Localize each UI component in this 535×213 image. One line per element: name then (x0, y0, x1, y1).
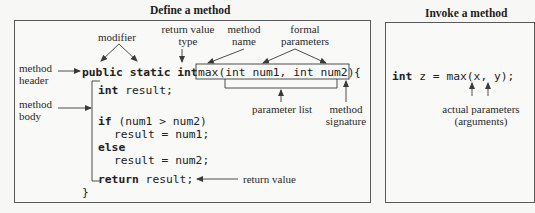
method-signature-line1: method (324, 103, 368, 115)
code-return-rest: result; (139, 173, 193, 186)
code-line-2: if (num1 > num2) (98, 115, 207, 128)
method-header-label: method header (19, 62, 52, 86)
actual-parameters-line1: actual parameters (436, 103, 526, 115)
code-line-4: else (98, 141, 125, 154)
method-header-code: public static int (82, 66, 198, 79)
invoke-int-kw: int (392, 70, 412, 83)
code-int: int (177, 66, 197, 79)
code-closing-brace: } (82, 186, 89, 199)
code-line-3: result = num1; (114, 128, 209, 141)
method-body-line1: method (19, 98, 52, 110)
method-signature-line2: signature (324, 115, 368, 127)
invoke-rest: z = max(x, y); (412, 70, 514, 83)
code-result-decl: result; (118, 84, 172, 97)
method-name-label: method name (221, 23, 267, 47)
actual-parameters-label: actual parameters (arguments) (436, 103, 526, 127)
code-line-5: result = num2; (114, 154, 209, 167)
code-line-1: int result; (98, 84, 173, 97)
method-name-line2: name (221, 35, 267, 47)
formal-parameters-line2: parameters (270, 35, 340, 47)
method-name-line1: method (221, 23, 267, 35)
code-if-cond: (num1 > num2) (112, 115, 207, 128)
code-line-6: return result; (98, 173, 193, 186)
return-value-type-line2: type (153, 35, 223, 47)
method-signature-code: max(int num1, int num2) (198, 66, 354, 79)
return-value-type-label: return value type (153, 23, 223, 47)
modifier-label: modifier (98, 31, 136, 43)
code-static: static (130, 66, 171, 79)
actual-parameters-line2: (arguments) (436, 115, 526, 127)
parameter-list-label: parameter list (252, 103, 312, 115)
invoke-method-title: Invoke a method (425, 7, 507, 19)
return-value-label: return value (243, 173, 296, 185)
method-open-brace: { (354, 66, 361, 79)
formal-parameters-line1: formal (270, 23, 340, 35)
method-header-line1: method (19, 62, 52, 74)
define-method-title: Define a method (150, 4, 231, 16)
method-body-label: method body (19, 98, 52, 122)
method-signature-label: method signature (324, 103, 368, 127)
method-body-line2: body (19, 110, 52, 122)
code-if-kw: if (98, 115, 112, 128)
code-public: public (82, 66, 123, 79)
return-value-type-line1: return value (153, 23, 223, 35)
invoke-code: int z = max(x, y); (392, 70, 514, 83)
method-header-line2: header (19, 74, 52, 86)
code-return-kw: return (98, 173, 139, 186)
formal-parameters-label: formal parameters (270, 23, 340, 47)
code-int-kw: int (98, 84, 118, 97)
